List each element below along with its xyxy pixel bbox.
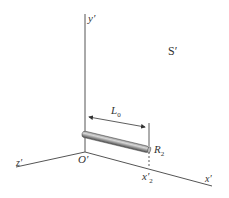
end-coord-subscript: 2 [149,177,153,185]
frame-label: S′ [168,45,177,57]
diagram-canvas [0,0,229,198]
end-coordinate-label: x′2 [142,171,153,185]
end-symbol: R [154,143,161,155]
origin-label: O′ [78,154,88,165]
y-axis-label: y′ [88,13,95,24]
z-axis [16,152,85,167]
rod-end-label: R2 [154,144,164,158]
rod-length-label: L0 [111,105,121,119]
x-axis-label: x′ [205,174,212,184]
rod [81,131,151,154]
z-axis-label: z′ [16,158,22,168]
end-subscript: 2 [161,150,165,158]
length-subscript: 0 [117,111,121,119]
